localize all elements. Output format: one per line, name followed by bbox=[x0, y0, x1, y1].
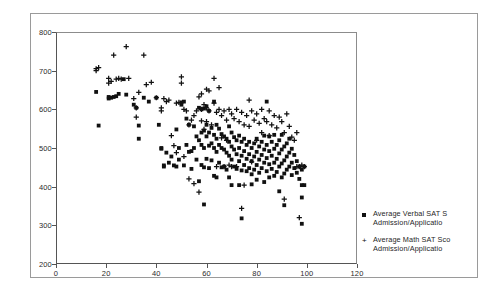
data-point-plus bbox=[264, 119, 269, 124]
legend-item-math: + Average Math SAT Sco Admission/Applica… bbox=[362, 236, 474, 253]
data-point-plus bbox=[191, 181, 196, 186]
data-point-square bbox=[252, 155, 256, 159]
data-point-square bbox=[197, 138, 201, 142]
data-point-plus bbox=[282, 196, 287, 201]
data-point-plus bbox=[196, 189, 201, 194]
data-point-plus bbox=[174, 150, 179, 155]
data-point-square bbox=[177, 146, 181, 150]
data-point-square bbox=[280, 133, 284, 137]
data-point-square bbox=[215, 175, 219, 179]
data-point-square bbox=[260, 153, 264, 157]
data-point-plus bbox=[294, 130, 299, 135]
data-point-plus bbox=[116, 76, 121, 81]
data-point-square bbox=[265, 143, 269, 147]
data-point-square bbox=[210, 158, 214, 162]
data-point-square bbox=[202, 165, 206, 169]
y-tick-label: 500 bbox=[39, 144, 52, 153]
x-tick-mark bbox=[56, 264, 57, 268]
chart-legend: Average Verbal SAT S Admission/Applicati… bbox=[362, 210, 474, 262]
data-point-square bbox=[137, 124, 141, 128]
data-point-plus bbox=[269, 122, 274, 127]
data-point-square bbox=[260, 166, 264, 170]
data-point-square bbox=[250, 172, 254, 176]
data-point-plus bbox=[96, 65, 101, 70]
data-point-square bbox=[124, 93, 128, 97]
data-point-square bbox=[262, 134, 266, 138]
data-point-plus bbox=[237, 119, 242, 124]
data-point-square bbox=[282, 172, 286, 176]
data-point-square bbox=[247, 152, 251, 156]
data-point-square bbox=[167, 161, 171, 165]
data-point-square bbox=[257, 171, 261, 175]
data-point-plus bbox=[111, 53, 116, 58]
data-point-plus bbox=[124, 44, 129, 49]
data-point-square bbox=[295, 171, 299, 175]
data-point-square bbox=[185, 117, 189, 121]
data-point-square bbox=[260, 140, 264, 144]
data-point-square bbox=[242, 149, 246, 153]
series-verbal bbox=[94, 77, 306, 225]
data-point-square bbox=[257, 158, 261, 162]
data-point-square bbox=[267, 162, 271, 166]
data-point-square bbox=[245, 157, 249, 161]
data-point-square bbox=[227, 175, 231, 179]
data-point-square bbox=[282, 158, 286, 162]
data-point-plus bbox=[249, 108, 254, 113]
data-point-square bbox=[240, 169, 244, 173]
data-point-plus bbox=[279, 119, 284, 124]
data-point-plus bbox=[199, 118, 204, 123]
x-tick-label: 120 bbox=[350, 269, 363, 278]
data-point-plus bbox=[292, 138, 297, 143]
data-point-square bbox=[212, 146, 216, 150]
data-point-square bbox=[232, 148, 236, 152]
y-tick-label: 400 bbox=[39, 182, 52, 191]
x-tick-mark bbox=[257, 264, 258, 268]
data-point-plus bbox=[262, 116, 267, 121]
data-point-plus bbox=[252, 118, 257, 123]
legend-item-verbal-line2: Admission/Applicatio bbox=[373, 219, 447, 228]
scatter-points-svg bbox=[56, 32, 357, 264]
data-point-square bbox=[272, 174, 276, 178]
data-point-square bbox=[287, 151, 291, 155]
data-point-square bbox=[237, 146, 241, 150]
data-point-square bbox=[240, 154, 244, 158]
scatter-chart: 200300400500600700800 020406080100120 Av… bbox=[0, 0, 504, 301]
data-point-plus bbox=[211, 76, 216, 81]
data-point-plus bbox=[257, 121, 262, 126]
data-point-plus bbox=[214, 110, 219, 115]
data-point-plus bbox=[234, 107, 239, 112]
data-point-plus bbox=[231, 116, 236, 121]
data-point-square bbox=[280, 175, 284, 179]
data-point-plus bbox=[196, 94, 201, 99]
data-point-square bbox=[227, 124, 231, 128]
data-point-square bbox=[230, 183, 234, 187]
x-tick-mark bbox=[307, 264, 308, 268]
data-point-square bbox=[255, 150, 259, 154]
data-point-square bbox=[272, 147, 276, 151]
y-axis: 200300400500600700800 bbox=[0, 32, 52, 264]
x-tick-mark bbox=[357, 264, 358, 268]
data-point-square bbox=[272, 133, 276, 137]
x-tick-mark bbox=[207, 264, 208, 268]
data-point-square bbox=[215, 150, 219, 154]
data-point-plus bbox=[216, 107, 221, 112]
data-point-square bbox=[215, 137, 219, 141]
data-point-square bbox=[207, 131, 211, 135]
x-tick-label: 60 bbox=[202, 269, 211, 278]
data-point-plus bbox=[287, 124, 292, 129]
data-point-plus bbox=[274, 125, 279, 130]
data-point-plus bbox=[239, 110, 244, 115]
x-tick-label: 0 bbox=[54, 269, 58, 278]
data-point-plus bbox=[226, 107, 231, 112]
data-point-plus bbox=[126, 76, 131, 81]
data-point-plus bbox=[189, 118, 194, 123]
data-point-plus bbox=[244, 113, 249, 118]
data-point-square bbox=[272, 161, 276, 165]
data-point-square bbox=[302, 183, 306, 187]
data-point-square bbox=[285, 155, 289, 159]
data-point-square bbox=[240, 216, 244, 220]
data-point-plus bbox=[106, 76, 111, 81]
data-point-plus bbox=[131, 96, 136, 101]
data-point-square bbox=[205, 157, 209, 161]
data-point-square bbox=[202, 203, 206, 207]
